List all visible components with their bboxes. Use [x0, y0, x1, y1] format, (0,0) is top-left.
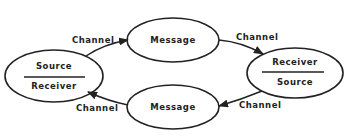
node-label: Message [150, 35, 195, 45]
node-label: Message [150, 102, 195, 112]
node-message-bottom: Message [127, 85, 219, 129]
edge-channel-1: Channel [72, 35, 128, 56]
node-message-top: Message [127, 18, 219, 62]
node-source-receiver: Source Receiver [5, 50, 103, 102]
communication-cycle-diagram: Source Receiver Message Receiver Source … [0, 0, 346, 137]
node-top-label: Source [36, 61, 72, 71]
edge-label: Channel [76, 103, 118, 113]
edge-channel-2: Channel [219, 32, 278, 54]
edge-channel-4: Channel [76, 92, 128, 113]
node-bottom-label: Source [277, 77, 313, 87]
node-bottom-label: Receiver [31, 81, 77, 91]
arrow-icon [219, 40, 263, 54]
edge-label: Channel [236, 32, 278, 42]
edge-label: Channel [72, 35, 114, 45]
node-top-label: Receiver [272, 57, 318, 67]
edge-label: Channel [239, 100, 281, 110]
edge-channel-3: Channel [219, 91, 281, 110]
